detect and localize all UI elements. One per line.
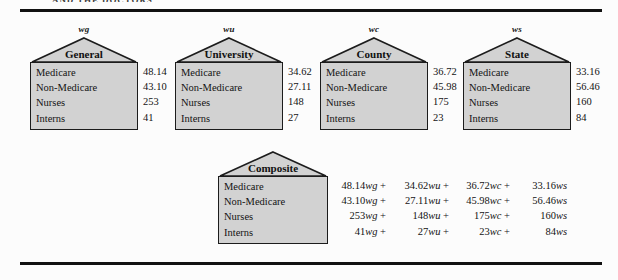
house-box-state: Medicare Non-Medicare Nurses Interns xyxy=(463,62,571,130)
house-rows-state: Medicare Non-Medicare Nurses Interns xyxy=(464,63,570,129)
house-title-state: State xyxy=(463,48,571,60)
house-rows-university: Medicare Non-Medicare Nurses Interns xyxy=(176,63,282,129)
value-non-medicare: 43.10 xyxy=(143,79,167,94)
formula-term-ws: 33.16ws xyxy=(513,178,570,193)
house-box-university: Medicare Non-Medicare Nurses Interns xyxy=(175,62,283,130)
formula-term-wg: 41wg + xyxy=(330,224,389,239)
formula-term-ws: 160ws xyxy=(513,208,570,223)
value-nurses: 160 xyxy=(576,94,600,109)
row-label-interns: Interns xyxy=(469,111,570,126)
value-non-medicare: 27.11 xyxy=(288,79,312,94)
formula-row-medicare: 48.14wg + 34.62wu + 36.72wc + 33.16ws xyxy=(330,178,570,193)
value-non-medicare: 56.46 xyxy=(576,79,600,94)
house-title-composite: Composite xyxy=(218,162,328,174)
value-non-medicare: 45.98 xyxy=(433,79,457,94)
value-interns: 23 xyxy=(433,110,457,125)
house-values-state: 33.16 56.46 160 84 xyxy=(576,64,600,125)
formula-term-wu: 148wu + xyxy=(389,208,452,223)
value-interns: 27 xyxy=(288,110,312,125)
weight-label-wc: wc xyxy=(320,24,428,34)
row-label-non-medicare: Non-Medicare xyxy=(469,80,570,95)
value-medicare: 34.62 xyxy=(288,64,312,79)
formula-term-wu: 27wu + xyxy=(389,224,452,239)
row-label-nurses: Nurses xyxy=(326,95,427,110)
weight-label-wu: wu xyxy=(175,24,283,34)
diagram-stage: wg General Medicare Non-Medicare Nurses … xyxy=(0,0,618,280)
formula-term-wg: 253wg + xyxy=(330,208,389,223)
value-interns: 41 xyxy=(143,110,167,125)
house-county: wc County Medicare Non-Medicare Nurses I… xyxy=(320,24,428,134)
value-medicare: 48.14 xyxy=(143,64,167,79)
row-label-medicare: Medicare xyxy=(224,179,327,194)
formula-term-wu: 27.11wu + xyxy=(389,193,452,208)
formula-term-wc: 36.72wc + xyxy=(452,178,513,193)
row-label-nurses: Nurses xyxy=(181,95,282,110)
house-values-university: 34.62 27.11 148 27 xyxy=(288,64,312,125)
formula-term-ws: 56.46ws xyxy=(513,193,570,208)
row-label-medicare: Medicare xyxy=(469,65,570,80)
row-label-interns: Interns xyxy=(36,111,137,126)
house-title-county: County xyxy=(320,48,428,60)
row-label-medicare: Medicare xyxy=(326,65,427,80)
value-medicare: 33.16 xyxy=(576,64,600,79)
house-box-general: Medicare Non-Medicare Nurses Interns xyxy=(30,62,138,130)
row-label-interns: Interns xyxy=(326,111,427,126)
row-label-non-medicare: Non-Medicare xyxy=(36,80,137,95)
value-medicare: 36.72 xyxy=(433,64,457,79)
value-nurses: 175 xyxy=(433,94,457,109)
house-rows-composite: Medicare Non-Medicare Nurses Interns xyxy=(219,177,327,243)
row-label-non-medicare: Non-Medicare xyxy=(181,80,282,95)
formula-row-nurses: 253wg + 148wu + 175wc + 160ws xyxy=(330,208,570,223)
composite-formulas: 48.14wg + 34.62wu + 36.72wc + 33.16ws 43… xyxy=(330,178,570,239)
row-label-medicare: Medicare xyxy=(36,65,137,80)
formula-term-wc: 175wc + xyxy=(452,208,513,223)
house-general: wg General Medicare Non-Medicare Nurses … xyxy=(30,24,138,134)
house-composite: Composite Medicare Non-Medicare Nurses I… xyxy=(218,150,328,254)
house-rows-county: Medicare Non-Medicare Nurses Interns xyxy=(321,63,427,129)
row-label-medicare: Medicare xyxy=(181,65,282,80)
formula-row-interns: 41wg + 27wu + 23wc + 84ws xyxy=(330,224,570,239)
formula-term-wu: 34.62wu + xyxy=(389,178,452,193)
house-values-general: 48.14 43.10 253 41 xyxy=(143,64,167,125)
row-label-nurses: Nurses xyxy=(224,209,327,224)
formula-term-wc: 23wc + xyxy=(452,224,513,239)
row-label-interns: Interns xyxy=(181,111,282,126)
weight-label-ws: ws xyxy=(463,24,571,34)
formula-term-wg: 43.10wg + xyxy=(330,193,389,208)
formula-term-ws: 84ws xyxy=(513,224,570,239)
house-title-general: General xyxy=(30,48,138,60)
house-title-university: University xyxy=(175,48,283,60)
house-box-county: Medicare Non-Medicare Nurses Interns xyxy=(320,62,428,130)
figure-page: AND THE DOCTORS wg General Medicare Non-… xyxy=(0,0,618,280)
value-nurses: 253 xyxy=(143,94,167,109)
value-interns: 84 xyxy=(576,110,600,125)
formula-term-wc: 45.98wc + xyxy=(452,193,513,208)
formula-row-non-medicare: 43.10wg + 27.11wu + 45.98wc + 56.46ws xyxy=(330,193,570,208)
row-label-nurses: Nurses xyxy=(469,95,570,110)
house-rows-general: Medicare Non-Medicare Nurses Interns xyxy=(31,63,137,129)
row-label-interns: Interns xyxy=(224,225,327,240)
house-values-county: 36.72 45.98 175 23 xyxy=(433,64,457,125)
row-label-nurses: Nurses xyxy=(36,95,137,110)
house-university: wu University Medicare Non-Medicare Nurs… xyxy=(175,24,283,134)
row-label-non-medicare: Non-Medicare xyxy=(326,80,427,95)
formula-term-wg: 48.14wg + xyxy=(330,178,389,193)
house-state: ws State Medicare Non-Medicare Nurses In… xyxy=(463,24,571,134)
house-box-composite: Medicare Non-Medicare Nurses Interns xyxy=(218,176,328,244)
value-nurses: 148 xyxy=(288,94,312,109)
row-label-non-medicare: Non-Medicare xyxy=(224,194,327,209)
weight-label-wg: wg xyxy=(30,24,138,34)
